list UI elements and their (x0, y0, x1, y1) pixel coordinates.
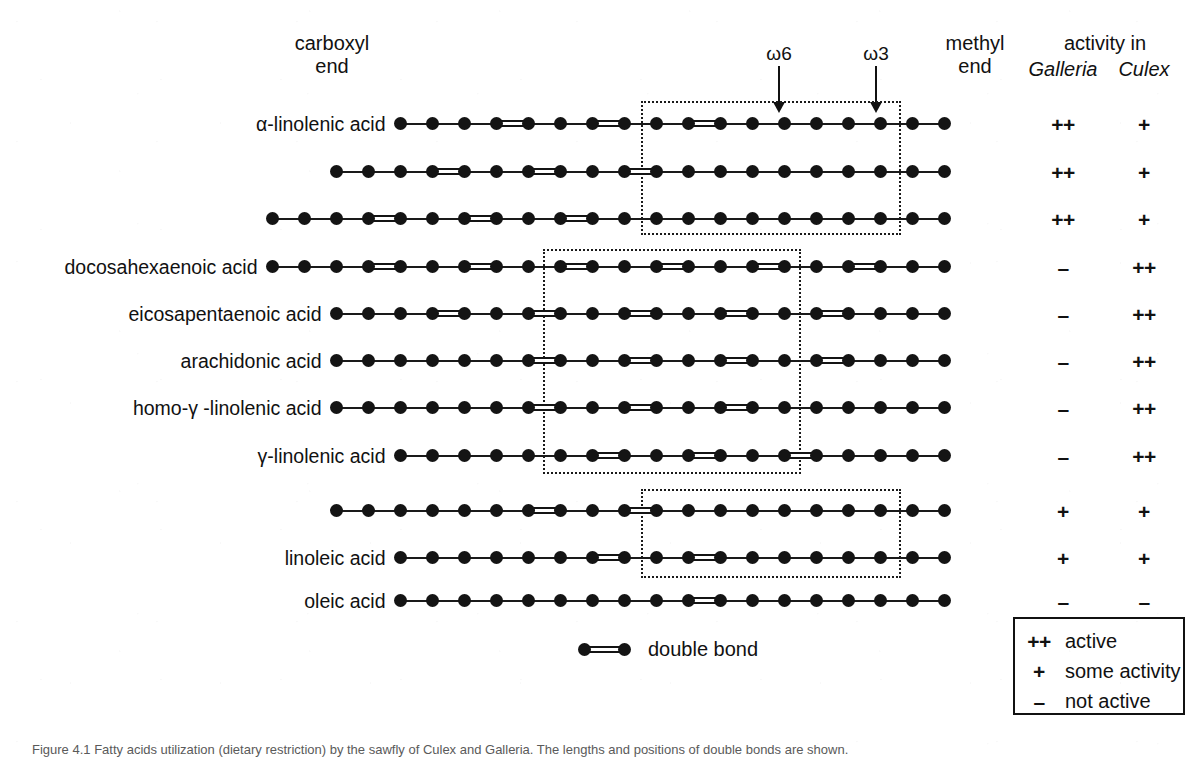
carbon-atom (458, 449, 471, 462)
carbon-atom (618, 165, 631, 178)
legend-symbol: + (1021, 661, 1057, 682)
fatty-acid-name-label: docosahexaenoic acid (20, 256, 258, 278)
carbon-atom (490, 307, 503, 320)
carbon-atom (618, 354, 631, 367)
omega6-label: ω6 (749, 44, 809, 63)
omega3-arrow-line (875, 66, 877, 102)
carbon-atom (746, 117, 759, 130)
fatty-acid-chain (330, 303, 951, 325)
fatty-acid-chain (266, 256, 951, 278)
galleria-column-header: Galleria (1018, 58, 1108, 81)
carbon-atom (746, 260, 759, 273)
carbon-atom (586, 260, 599, 273)
carbon-atom (714, 401, 727, 414)
carbon-atom (426, 212, 439, 225)
carbon-atom (906, 117, 919, 130)
carbon-atom (522, 117, 535, 130)
fatty-acid-name-label: oleic acid (20, 590, 386, 612)
fatty-acid-chain (330, 500, 951, 522)
carbon-atom (682, 307, 695, 320)
carbon-atom (810, 354, 823, 367)
carbon-atom (394, 504, 407, 517)
carbon-atom (330, 212, 343, 225)
carbon-atom (586, 551, 599, 564)
legend-label: some activity (1065, 661, 1181, 682)
carbon-atom (906, 212, 919, 225)
carbon-atom (266, 260, 279, 273)
carbon-atom (714, 307, 727, 320)
carbon-atom (554, 117, 567, 130)
methyl-end-label: methyl end (920, 32, 1030, 78)
carbon-atom (586, 212, 599, 225)
carbon-atom (458, 212, 471, 225)
carbon-atom (746, 165, 759, 178)
carbon-atom (650, 401, 663, 414)
carbon-atom (330, 307, 343, 320)
carbon-atom (394, 307, 407, 320)
carbon-atom (362, 307, 375, 320)
carbon-atom (810, 594, 823, 607)
carbon-atom (490, 260, 503, 273)
carbon-atom (458, 354, 471, 367)
galleria-activity-value: ++ (1018, 114, 1108, 135)
carbon-atom (906, 354, 919, 367)
chain-backbone (400, 600, 944, 602)
carbon-atom (842, 551, 855, 564)
carbon-atom (394, 260, 407, 273)
carbon-atom (266, 212, 279, 225)
carbon-atom (522, 401, 535, 414)
carbon-atom (618, 260, 631, 273)
figure-caption: Figure 4.1 Fatty acids utilization (diet… (32, 742, 1042, 758)
carbon-atom (362, 354, 375, 367)
carbon-atom (362, 212, 375, 225)
carbon-atom (778, 401, 791, 414)
carbon-atom (554, 307, 567, 320)
key-carbon-atom (618, 643, 631, 656)
carbon-atom (586, 165, 599, 178)
carbon-atom (938, 594, 951, 607)
carbon-atom (842, 165, 855, 178)
carbon-atom (810, 307, 823, 320)
carbon-atom (554, 504, 567, 517)
carbon-atom (650, 449, 663, 462)
carbon-atom (874, 449, 887, 462)
carbon-atom (842, 117, 855, 130)
carbon-atom (682, 354, 695, 367)
carbon-atom (938, 165, 951, 178)
culex-column-header: Culex (1104, 58, 1184, 81)
fatty-acid-name-label: α-linolenic acid (20, 113, 386, 135)
carbon-atom (682, 117, 695, 130)
carbon-atom (938, 354, 951, 367)
carbon-atom (458, 307, 471, 320)
carbon-atom (682, 212, 695, 225)
carbon-atom (874, 401, 887, 414)
carbon-atom (906, 449, 919, 462)
carbon-atom (938, 117, 951, 130)
carbon-atom (682, 449, 695, 462)
omega3-label: ω3 (846, 44, 906, 63)
carbon-atom (874, 212, 887, 225)
carbon-atom (362, 504, 375, 517)
carbon-atom (490, 594, 503, 607)
galleria-activity-value: + (1018, 501, 1108, 522)
carbon-atom (874, 551, 887, 564)
carbon-atom (650, 165, 663, 178)
carbon-atom (682, 165, 695, 178)
carbon-atom (298, 260, 311, 273)
double-bond-key-label: double bond (648, 638, 758, 660)
legend-symbol: ++ (1021, 631, 1057, 652)
carbon-atom (554, 551, 567, 564)
carbon-atom (714, 260, 727, 273)
carbon-atom (618, 401, 631, 414)
carbon-atom (490, 449, 503, 462)
carbon-atom (810, 165, 823, 178)
carbon-atom (490, 401, 503, 414)
carbon-atom (362, 260, 375, 273)
carbon-atom (810, 260, 823, 273)
carbon-atom (618, 594, 631, 607)
carbon-atom (362, 165, 375, 178)
carbon-atom (938, 260, 951, 273)
carbon-atom (810, 212, 823, 225)
carbon-atom (426, 117, 439, 130)
carbon-atom (810, 401, 823, 414)
